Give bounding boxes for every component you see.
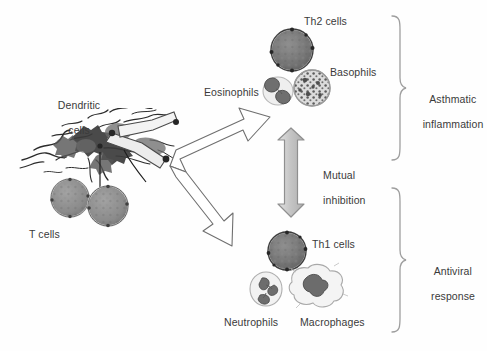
dendritic-cells-label: Dendritic cells [30, 86, 116, 149]
neutrophil-cell [250, 272, 282, 306]
th2-cell [270, 28, 315, 73]
mutual-inhibition-arrow [278, 128, 304, 217]
asthmatic-inflammation-label-line2: inflammation [423, 118, 484, 130]
upper-branch-block-arrow [170, 108, 270, 172]
antiviral-response-label-line1: Antiviral [434, 265, 472, 277]
neutrophils-label: Neutrophils [224, 316, 278, 329]
eosinophil-cell [263, 76, 293, 106]
dendritic-cells-label-line2: cells [68, 124, 90, 136]
mutual-inhibition-label-line1: Mutual [323, 169, 355, 181]
macrophages-label: Macrophages [300, 316, 365, 329]
dendritic-cells-label-line1: Dendritic [58, 99, 100, 111]
mutual-inhibition-label: Mutual inhibition [311, 156, 366, 219]
eosinophils-label: Eosinophils [204, 86, 259, 99]
t-cell-left [50, 178, 89, 218]
basophils-label: Basophils [330, 66, 376, 79]
basophil-cell [294, 70, 330, 106]
asthmatic-inflammation-brace [392, 16, 406, 160]
th1-cells-label: Th1 cells [312, 238, 355, 251]
mutual-inhibition-label-line2: inhibition [323, 194, 365, 206]
antiviral-response-label-line2: response [431, 290, 475, 302]
th2-cells-label: Th2 cells [304, 15, 347, 28]
asthmatic-inflammation-label: Asthmatic inflammation [408, 80, 486, 143]
antiviral-response-brace [392, 188, 406, 332]
t-cell-right [87, 185, 129, 228]
t-cells-label: T cells [29, 228, 60, 241]
lower-branch-block-arrow [170, 166, 233, 246]
immune-polarization-figure: Dendritic cells T cells Eosinophils Th2 … [0, 0, 487, 351]
macrophage-cell [289, 263, 348, 308]
antiviral-response-label: Antiviral response [408, 252, 486, 315]
asthmatic-inflammation-label-line1: Asthmatic [429, 93, 476, 105]
th1-cell [267, 231, 308, 272]
